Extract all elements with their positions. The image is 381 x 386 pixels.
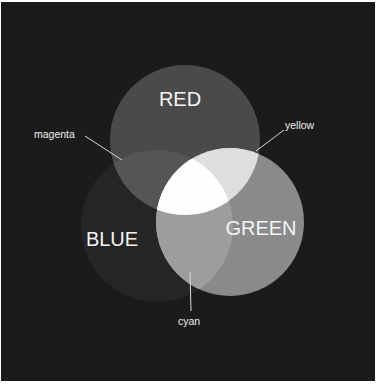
venn-diagram: RED GREEN BLUE magenta yellow cyan xyxy=(0,0,381,386)
yellow-leader-line xyxy=(256,130,284,151)
label-blue: BLUE xyxy=(86,228,138,250)
label-cyan: cyan xyxy=(178,315,200,327)
label-green: GREEN xyxy=(225,217,296,239)
label-magenta: magenta xyxy=(34,128,75,140)
label-yellow: yellow xyxy=(285,119,315,131)
label-red: RED xyxy=(159,88,201,110)
